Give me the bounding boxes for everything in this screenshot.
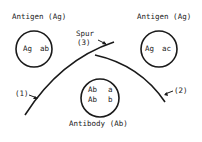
antibody-row1-right: a (108, 86, 113, 94)
antigen-right-content-right: ac (162, 45, 171, 53)
arrowhead-icon-spur (102, 41, 107, 45)
antigen-right-content-left: Ag (145, 45, 154, 53)
antibody-well (81, 79, 119, 117)
line-1-label: (1) (15, 90, 29, 98)
antibody-title: Antibody (Ab) (69, 120, 128, 128)
antibody-row2-right: b (108, 96, 113, 104)
antibody-row2-left: Ab (88, 96, 97, 104)
antigen-left-title: Antigen (Ag) (12, 13, 66, 21)
antigen-left-content-left: Ag (23, 45, 32, 53)
spur-label: Spur (76, 30, 94, 38)
precipitin-line-2 (95, 55, 165, 102)
antigen-right-title: Antigen (Ag) (137, 13, 191, 21)
spur-number: (3) (77, 39, 91, 47)
antibody-row1-left: Ab (88, 86, 97, 94)
line-2-label: (2) (174, 87, 188, 95)
antigen-left-content-right: ab (40, 45, 49, 53)
immunodiffusion-diagram: Antigen (Ag) Ag ab Antigen (Ag) Ag ac Sp… (0, 0, 202, 142)
